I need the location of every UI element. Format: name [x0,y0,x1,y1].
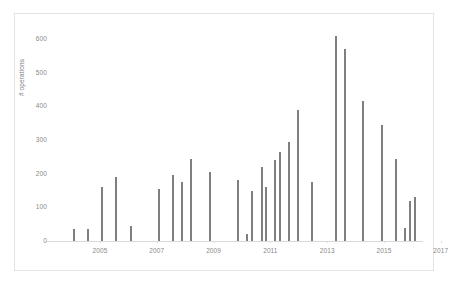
y-tick-label: 400 [25,102,47,109]
x-tick-label: 2009 [201,247,227,254]
x-tick-mark [270,241,271,243]
y-tick-label: 0 [25,237,47,244]
y-tick-label: 200 [25,170,47,177]
x-tick-mark [384,241,385,243]
x-tick-mark [214,241,215,243]
x-tick-label: 2011 [257,247,283,254]
y-tick-label: 100 [25,203,47,210]
x-tick-mark [327,241,328,243]
x-tick-label: 2005 [87,247,113,254]
y-tick-label: 300 [25,136,47,143]
x-tick-mark [100,241,101,243]
x-tick-mark [157,241,158,243]
y-tick-label: 500 [25,69,47,76]
y-tick-label: 600 [25,35,47,42]
x-tick-label: 2017 [428,247,453,254]
x-tick-label: 2013 [314,247,340,254]
x-tick-label: 2015 [371,247,397,254]
y-axis-title: # operations [18,59,25,96]
x-tick-mark [441,241,442,243]
x-tick-label: 2007 [144,247,170,254]
chart-plot-frame [14,13,434,271]
x-axis-line [47,241,423,242]
